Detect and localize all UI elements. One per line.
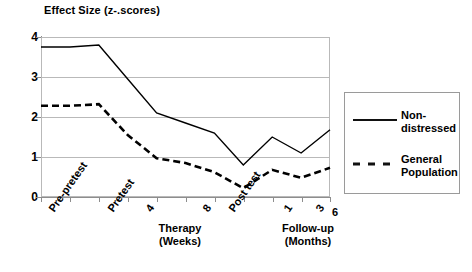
legend-item-non-distressed: Non-distressed — [345, 111, 459, 145]
legend: Non-distressed General Population — [344, 92, 460, 194]
legend-item-general-population: General Population — [345, 155, 459, 189]
x-group-label-therapy-unit: (Weeks) — [140, 235, 220, 248]
y-tick-label-2: 2 — [4, 111, 38, 123]
y-axis-ticks: 4 3 2 1 0 — [0, 0, 38, 272]
y-tick-label-3: 3 — [4, 71, 38, 83]
chart-container: Effect Size (z-.scores) 4 3 2 1 0 — [0, 0, 472, 272]
x-tick-label-6: 6 — [332, 206, 338, 218]
series-line-non-distressed — [41, 45, 330, 165]
y-tick-label-4: 4 — [4, 31, 38, 43]
x-tick-label-1: 1 — [281, 202, 294, 214]
x-group-label-therapy-title: Therapy — [140, 222, 220, 235]
x-tick-label-3: 3 — [313, 202, 326, 214]
legend-swatch-solid-icon — [353, 114, 397, 126]
legend-label-non-distressed: Non-distressed — [401, 109, 459, 135]
x-tick-label-8: 8 — [200, 202, 213, 214]
x-tick-label-4: 4 — [143, 202, 156, 214]
y-tick-label-0: 0 — [4, 191, 38, 203]
x-group-label-followup-unit: (Months) — [263, 235, 353, 248]
series-line-general-population — [41, 104, 330, 188]
x-group-label-followup-title: Follow-up — [263, 222, 353, 235]
y-tick-label-1: 1 — [4, 151, 38, 163]
x-group-label-followup: Follow-up (Months) — [263, 222, 353, 248]
legend-swatch-dashed-icon — [353, 158, 397, 170]
legend-label-general-population: General Population — [401, 153, 459, 179]
x-group-label-therapy: Therapy (Weeks) — [140, 222, 220, 248]
chart-title: Effect Size (z-.scores) — [44, 4, 160, 16]
